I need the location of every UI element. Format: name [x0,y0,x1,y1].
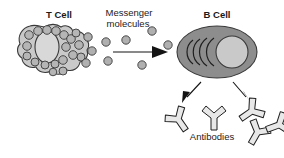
label-antibodies: Antibodies [190,131,235,142]
label-t-cell: T Cell [46,9,72,20]
t-cell-group [18,24,89,75]
messenger-molecules-group [82,27,172,69]
antibody [262,110,284,141]
messenger-molecule [164,41,172,49]
b-cell-group [177,26,257,78]
antibody [241,117,274,150]
messenger-molecule [102,38,110,46]
immune-response-diagram: T Cell Messenger molecules B Cell Antibo… [0,0,284,158]
label-messenger-line2: molecules [107,18,150,29]
messenger-molecule [84,33,92,41]
production-arrows [182,82,251,103]
production-arrow-right [233,82,251,103]
b-cell-nucleus [216,36,248,68]
label-b-cell: B Cell [204,9,231,20]
production-arrow-left [182,82,201,103]
t-cell-nucleus [35,31,59,63]
messenger-molecule [88,47,96,55]
messenger-molecule [82,59,90,67]
label-messenger-line1: Messenger [106,7,153,18]
transfer-arrow [113,46,168,58]
antibody [202,106,226,130]
messenger-molecule [104,57,112,65]
messenger-molecule [122,36,130,44]
messenger-molecule [138,61,146,69]
